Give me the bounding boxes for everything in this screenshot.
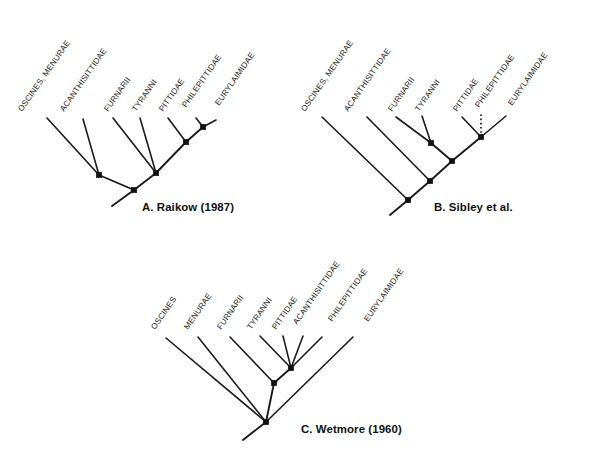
taxon-label: FURNARII	[102, 75, 132, 113]
taxon-label: ACANTHISITTIDAE	[342, 46, 393, 113]
internal-branch	[452, 137, 481, 161]
tip-branch	[140, 118, 156, 173]
panel-caption: B. Sibley et al.	[434, 201, 513, 213]
taxon-label: FURNARII	[215, 293, 245, 331]
panel-c: OSCINESMENURAEFURNARIITYRANNIPITTIDAEACA…	[149, 259, 405, 440]
root-stem	[243, 422, 266, 440]
taxon-label: TYRANNI	[413, 78, 442, 113]
panel-caption: C. Wetmore (1960)	[301, 423, 402, 435]
tip-branch	[322, 117, 408, 200]
taxon-label: TYRANNI	[130, 78, 159, 113]
taxon-label: EURYLAIMIDAE	[362, 266, 405, 323]
taxon-label: PITTIDAE	[451, 77, 480, 114]
clade-node-marker	[183, 139, 188, 144]
internal-branch	[430, 161, 452, 181]
internal-branch	[156, 142, 186, 173]
clade-node-marker	[405, 197, 410, 202]
tip-branch	[168, 118, 186, 142]
tip-branch	[291, 336, 303, 368]
clade-node-marker	[153, 170, 158, 175]
clade-node-marker	[200, 124, 205, 129]
taxon-label: OSCINES	[149, 295, 178, 331]
panels-group: OSCINES, MENURAEACANTHISITTIDAEFURNARIIT…	[16, 38, 549, 440]
taxon-label: PITTIDAE	[270, 295, 299, 332]
tip-branch	[367, 117, 430, 181]
clade-node-marker	[263, 419, 268, 424]
taxon-label: MENURAE	[182, 291, 214, 331]
tip-branch	[481, 116, 506, 137]
tip-branch	[396, 117, 431, 143]
tip-branch	[291, 337, 322, 368]
taxon-label: PITTIDAE	[157, 77, 186, 114]
taxon-label: ACANTHISITTIDAE	[58, 46, 109, 113]
tip-branch	[166, 338, 266, 422]
internal-branch	[99, 175, 134, 190]
tip-branch	[113, 118, 156, 173]
panel-a: OSCINES, MENURAEACANTHISITTIDAEFURNARIIT…	[16, 38, 256, 213]
clade-node-marker	[427, 178, 432, 183]
clade-node-marker	[288, 365, 293, 370]
panel-caption: A. Raikow (1987)	[142, 201, 234, 213]
taxon-label: FURNARII	[386, 75, 416, 113]
clade-node-marker	[449, 158, 454, 163]
panel-b: OSCINES, MENURAEACANTHISITTIDAEFURNARIIT…	[299, 38, 549, 215]
root-stem	[112, 190, 134, 206]
clade-node-marker	[271, 380, 276, 385]
clade-node-marker	[96, 172, 101, 177]
clade-node-marker	[131, 187, 136, 192]
clade-node-marker	[428, 140, 433, 145]
clade-node-marker	[478, 134, 483, 139]
phylogeny-figure: OSCINES, MENURAEACANTHISITTIDAEFURNARIIT…	[0, 0, 601, 465]
internal-branch	[431, 143, 452, 161]
internal-branch	[408, 181, 430, 200]
tip-branch	[198, 337, 266, 422]
internal-branch	[134, 173, 156, 190]
tree-canvas: OSCINES, MENURAEACANTHISITTIDAEFURNARIIT…	[0, 0, 601, 465]
